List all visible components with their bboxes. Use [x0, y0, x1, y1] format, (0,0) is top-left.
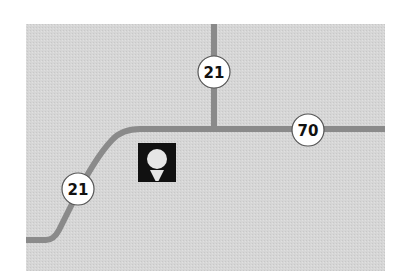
shield-21-southwest[interactable]: 21 [62, 173, 94, 205]
shield-label: 70 [298, 122, 319, 140]
shield-70[interactable]: 70 [292, 114, 324, 146]
shield-label: 21 [68, 181, 89, 199]
golf-course-marker[interactable] [138, 143, 176, 182]
shield-label: 21 [204, 64, 225, 82]
map: 21 70 21 [0, 0, 403, 278]
shield-21-north[interactable]: 21 [198, 56, 230, 88]
